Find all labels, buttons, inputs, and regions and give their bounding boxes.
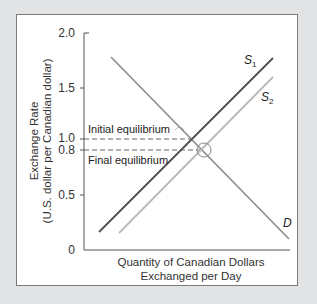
y-tick-label-0: 0	[68, 243, 75, 257]
axes	[80, 33, 290, 250]
exchange-rate-chart: 2.0 1.5 1.0 0.8 0.5 0 Exchange Rate (U.S…	[0, 0, 317, 304]
y-tick-label-0.8: 0.8	[58, 143, 75, 157]
svg-text:Exchanged per Day: Exchanged per Day	[140, 270, 241, 282]
s1-label: S1	[244, 53, 257, 69]
y-tick-label-1.5: 1.5	[58, 81, 75, 95]
s2-label: S2	[261, 90, 274, 106]
svg-text:Quantity of Canadian Dollars: Quantity of Canadian Dollars	[117, 256, 264, 268]
initial-equilibrium-label: Initial equilibrium	[88, 123, 170, 135]
d-label: D	[283, 216, 292, 230]
supply-curve-s1	[99, 58, 273, 232]
svg-text:(U.S. dollar per Canadian doll: (U.S. dollar per Canadian dollar)	[41, 58, 53, 223]
demand-curve-d	[111, 57, 289, 239]
y-tick-label-2.0: 2.0	[58, 26, 75, 40]
y-axis-title: Exchange Rate (U.S. dollar per Canadian …	[28, 58, 53, 223]
svg-text:Exchange Rate: Exchange Rate	[28, 102, 40, 181]
y-tick-labels: 2.0 1.5 1.0 0.8 0.5 0	[58, 26, 75, 257]
y-tick-label-0.5: 0.5	[58, 188, 75, 202]
final-equilibrium-label: Final equilibrium	[88, 154, 168, 166]
x-axis-title: Quantity of Canadian Dollars Exchanged p…	[117, 256, 264, 282]
